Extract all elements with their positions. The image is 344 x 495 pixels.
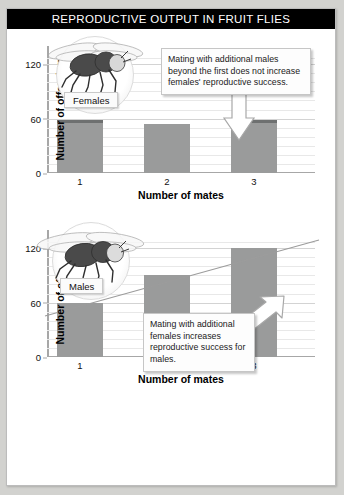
x-tick-label: 1 <box>77 176 82 187</box>
figure-page: REPRODUCTIVE OUTPUT IN FRUIT FLIES 0 60 … <box>0 0 344 495</box>
y-tick-label: 60 <box>30 113 47 124</box>
callout-females: Mating with additional males beyond the … <box>161 48 311 95</box>
chart-males: 0 60 120 1 2 3 Number of offspring Numbe… <box>0 218 344 398</box>
x-tick-label: 3 <box>251 176 256 187</box>
figure-title-bar: REPRODUCTIVE OUTPUT IN FRUIT FLIES <box>7 9 335 29</box>
callout-arrow-females <box>222 88 256 146</box>
x-tick-label: 1 <box>77 360 82 371</box>
chart-females: 0 60 120 1 2 3 Number of offspring Numbe… <box>0 34 344 216</box>
x-axis-title: Number of mates <box>47 189 315 201</box>
summary-footer: Males may increase reproductive success … <box>0 404 344 495</box>
bar-females-2 <box>144 124 190 173</box>
page-title: REPRODUCTIVE OUTPUT IN FRUIT FLIES <box>52 13 291 25</box>
fly-label-females: Females <box>64 92 118 108</box>
y-tick-label: 0 <box>36 352 47 363</box>
fly-label-males: Males <box>60 278 103 294</box>
callout-males: Mating with additional females increases… <box>143 313 255 372</box>
x-axis-title: Number of mates <box>47 373 315 385</box>
y-tick-label: 0 <box>36 168 47 179</box>
x-tick-label: 2 <box>164 176 169 187</box>
